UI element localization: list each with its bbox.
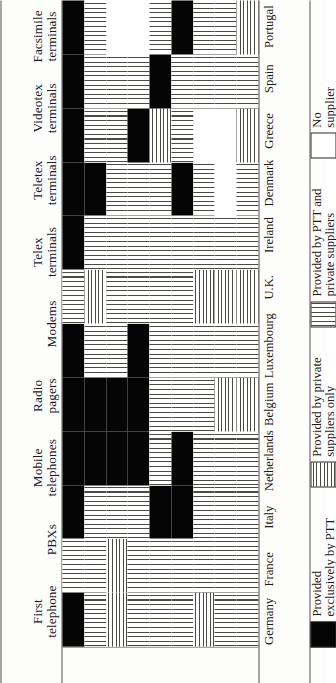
matrix-cell-germany-facsimile-terminals xyxy=(236,592,258,646)
row-label-luxembourg: Luxembourg xyxy=(259,313,309,378)
row-label-belgium: Belgium xyxy=(259,378,309,430)
matrix-cell-u-k-videotex-terminals xyxy=(214,269,236,323)
column-header-line1: Radio xyxy=(30,379,43,411)
matrix-cell-belgium-first-telephone xyxy=(62,377,84,431)
column-header-line1: PBXs xyxy=(44,524,57,555)
column-header-line2: terminals xyxy=(44,155,57,205)
column-header-line1: Facsimile xyxy=(30,10,43,62)
column-header-line2: pagers xyxy=(44,378,57,413)
column-header-mobile-telephones: Mobile telephones xyxy=(30,431,61,503)
row-label-portugal: Portugal xyxy=(259,0,309,52)
legend-item-private: Provided by private suppliers only xyxy=(310,357,336,487)
matrix-cell-spain-radio-pagers xyxy=(127,54,149,108)
matrix-column-netherlands xyxy=(62,431,258,485)
matrix-cell-luxembourg-videotex-terminals xyxy=(214,323,236,377)
provision-table: First telephone PBXs Mobile telephones R… xyxy=(0,0,310,683)
row-label-germany: Germany xyxy=(259,595,309,647)
matrix-cell-italy-modems xyxy=(149,485,171,539)
row-label-row: Germany France Italy Netherlands Belgium… xyxy=(259,0,309,683)
matrix-cell-netherlands-radio-pagers xyxy=(127,431,149,485)
matrix-cell-luxembourg-telex-terminals xyxy=(171,323,193,377)
matrix-cell-denmark-radio-pagers xyxy=(127,162,149,216)
matrix-cell-luxembourg-first-telephone xyxy=(62,323,84,377)
legend-label-line1: No xyxy=(310,87,323,128)
matrix-cell-france-radio-pagers xyxy=(127,538,149,592)
matrix-column-u-k xyxy=(62,269,258,323)
matrix-cell-italy-facsimile-terminals xyxy=(236,485,258,539)
matrix-cell-greece-mobile-telephones xyxy=(106,108,128,162)
column-header-line2: terminals xyxy=(44,227,57,277)
column-header-facsimile-terminals: Facsimile terminals xyxy=(30,0,61,72)
matrix-cell-belgium-pbxs xyxy=(84,377,106,431)
matrix-cell-netherlands-mobile-telephones xyxy=(106,431,128,485)
matrix-cell-germany-first-telephone xyxy=(62,592,84,646)
matrix-cell-italy-radio-pagers xyxy=(127,485,149,539)
matrix-cell-greece-modems xyxy=(149,108,171,162)
legend-item-both: Provided by PTT and private suppliers xyxy=(310,188,336,327)
matrix-cell-greece-facsimile-terminals xyxy=(236,108,258,162)
matrix-cell-luxembourg-pbxs xyxy=(84,323,106,377)
matrix-cell-ireland-mobile-telephones xyxy=(106,215,128,269)
matrix-cell-france-facsimile-terminals xyxy=(236,538,258,592)
matrix-cell-denmark-pbxs xyxy=(84,162,106,216)
matrix-cell-belgium-modems xyxy=(149,377,171,431)
matrix-cell-spain-teletex-terminals xyxy=(193,54,215,108)
matrix-cell-france-first-telephone xyxy=(62,538,84,592)
matrix-column-germany xyxy=(62,592,258,646)
row-label-netherlands: Netherlands xyxy=(259,430,309,491)
matrix-cell-netherlands-first-telephone xyxy=(62,431,84,485)
row-label-denmark: Denmark xyxy=(259,156,309,208)
legend-label-both: Provided by PTT and private suppliers xyxy=(310,188,336,296)
legend-label-line1: Provided by private xyxy=(310,357,323,456)
matrix-cell-germany-pbxs xyxy=(84,592,106,646)
matrix-cell-italy-teletex-terminals xyxy=(193,485,215,539)
legend-swatch-both-icon xyxy=(310,301,336,327)
matrix-cell-greece-telex-terminals xyxy=(171,108,193,162)
matrix-cell-germany-telex-terminals xyxy=(171,592,193,646)
matrix-cell-spain-facsimile-terminals xyxy=(236,54,258,108)
column-header-line1: Mobile xyxy=(30,448,43,487)
matrix-cell-portugal-mobile-telephones xyxy=(106,0,128,54)
matrix-cell-ireland-teletex-terminals xyxy=(193,215,215,269)
matrix-cell-france-mobile-telephones xyxy=(106,538,128,592)
matrix-cell-greece-first-telephone xyxy=(62,108,84,162)
matrix-cell-belgium-mobile-telephones xyxy=(106,377,128,431)
matrix-cell-u-k-facsimile-terminals xyxy=(236,269,258,323)
column-header-pbxs: PBXs xyxy=(44,503,61,575)
matrix-cell-portugal-telex-terminals xyxy=(171,0,193,54)
matrix-cell-ireland-modems xyxy=(149,215,171,269)
matrix-cell-spain-videotex-terminals xyxy=(214,54,236,108)
legend-label-line1: Provided xyxy=(310,517,323,616)
row-label-spain: Spain xyxy=(259,52,309,104)
matrix-cell-ireland-radio-pagers xyxy=(127,215,149,269)
matrix-cell-germany-modems xyxy=(149,592,171,646)
matrix-cell-denmark-mobile-telephones xyxy=(106,162,128,216)
matrix-cell-italy-mobile-telephones xyxy=(106,485,128,539)
matrix-cell-u-k-first-telephone xyxy=(62,269,84,323)
matrix-cell-netherlands-pbxs xyxy=(84,431,106,485)
matrix-cell-u-k-modems xyxy=(149,269,171,323)
matrix-cell-denmark-modems xyxy=(149,162,171,216)
matrix-column-portugal xyxy=(62,0,258,54)
row-label-france: France xyxy=(259,543,309,595)
matrix-cell-u-k-pbxs xyxy=(84,269,106,323)
column-header-row: First telephone PBXs Mobile telephones R… xyxy=(1,0,61,683)
matrix-cell-u-k-mobile-telephones xyxy=(106,269,128,323)
legend-item-none: No supplier xyxy=(310,87,336,159)
matrix-cell-belgium-facsimile-terminals xyxy=(236,377,258,431)
matrix-cell-u-k-teletex-terminals xyxy=(193,269,215,323)
column-header-line1: Teletex xyxy=(30,160,43,199)
legend-label-line2: supplier xyxy=(323,87,336,128)
matrix-cell-u-k-radio-pagers xyxy=(127,269,149,323)
matrix-cell-portugal-facsimile-terminals xyxy=(236,0,258,54)
matrix-cell-spain-modems xyxy=(149,54,171,108)
matrix-cell-netherlands-telex-terminals xyxy=(171,431,193,485)
matrix-cell-belgium-telex-terminals xyxy=(171,377,193,431)
column-header-modems: Modems xyxy=(44,288,61,360)
matrix-column-spain xyxy=(62,54,258,108)
matrix-cell-portugal-teletex-terminals xyxy=(193,0,215,54)
matrix-grid xyxy=(62,0,258,646)
matrix-cell-luxembourg-teletex-terminals xyxy=(193,323,215,377)
row-label-gutter xyxy=(259,647,309,683)
matrix-cell-germany-mobile-telephones xyxy=(106,592,128,646)
